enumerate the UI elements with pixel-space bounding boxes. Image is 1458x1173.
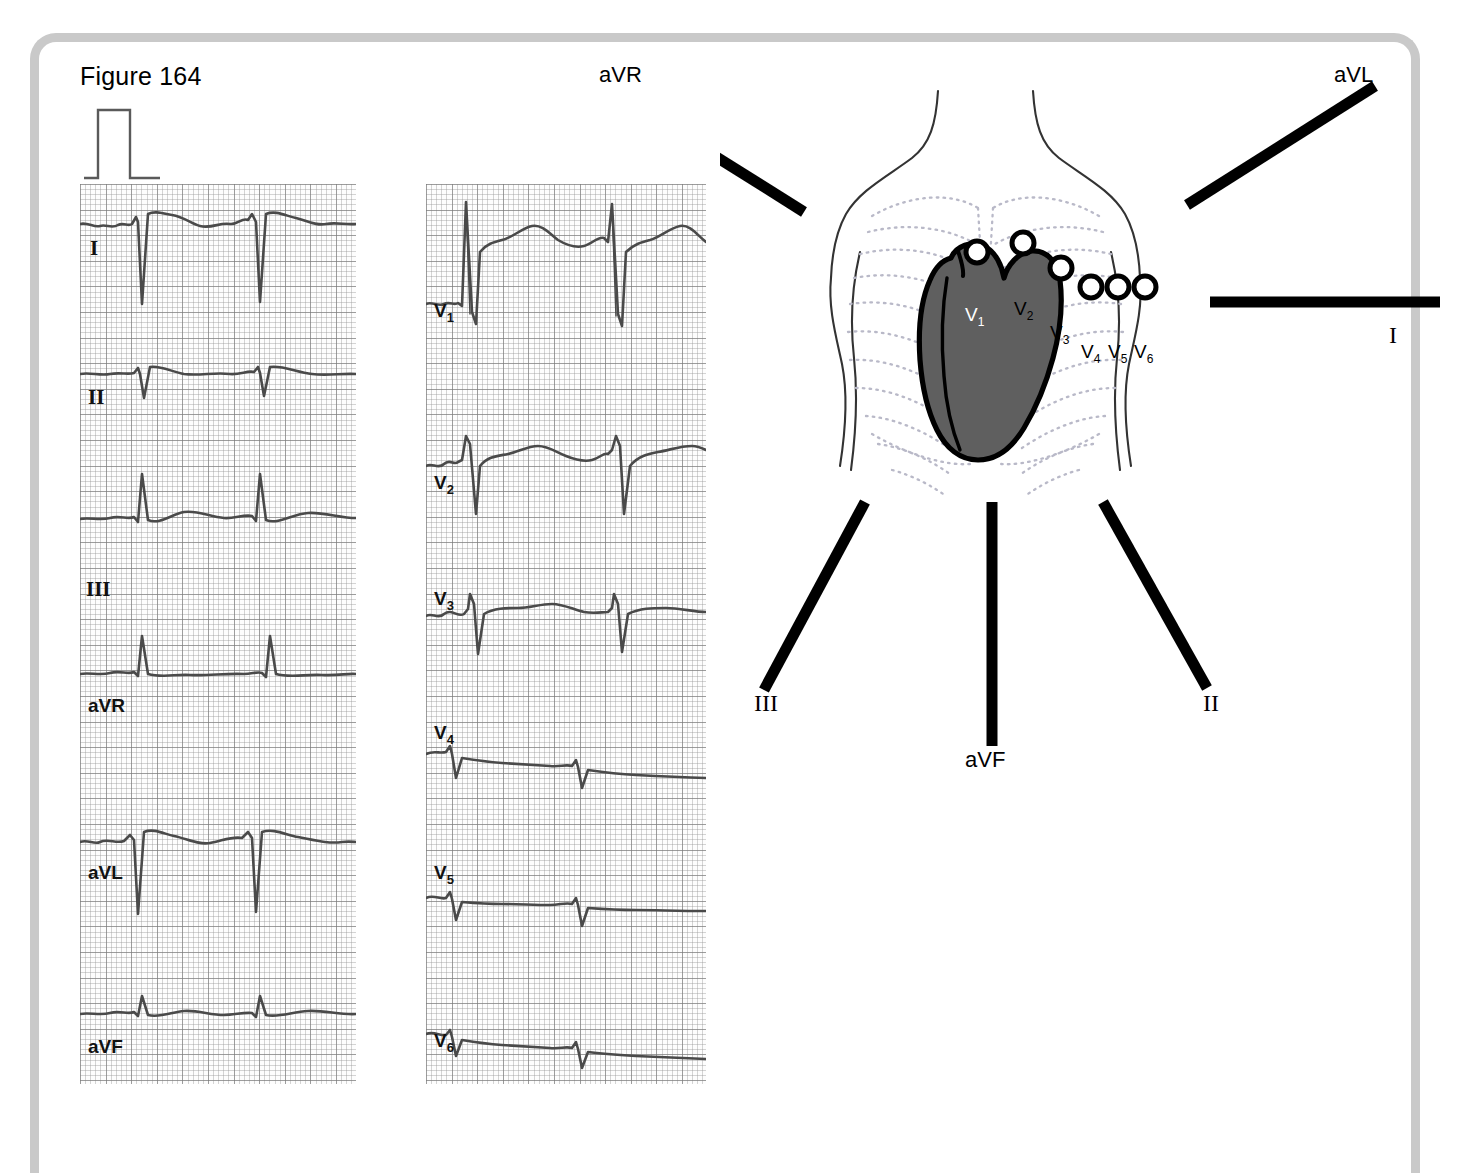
electrode-V4-icon: [1080, 276, 1102, 298]
lead-label-I: I: [90, 236, 98, 261]
electrode-V1-icon: [966, 241, 988, 263]
axis-label-III: III: [754, 690, 778, 717]
calibration-pulse-icon: [84, 106, 160, 184]
figure-title: Figure 164: [80, 62, 202, 91]
axis-label-aVR: aVR: [599, 62, 642, 88]
electrode-label-V4: V4: [1081, 341, 1100, 366]
electrode-label-V3: V3: [1050, 322, 1069, 347]
lead-axis-bars: [720, 85, 1440, 746]
lead-label-III: III: [86, 577, 111, 602]
axis-bar-III: [764, 502, 865, 690]
lead-label-aVF: aVF: [88, 1036, 123, 1058]
axis-label-aVF: aVF: [965, 747, 1005, 773]
axis-bar-aVL: [1187, 86, 1375, 205]
electrode-label-V5: V5: [1108, 341, 1127, 366]
heart-silhouette-icon: [919, 244, 1061, 460]
ecg-strip-chest-leads: [426, 184, 706, 1084]
electrode-label-V1: V1: [965, 304, 984, 329]
electrode-V6-icon: [1134, 276, 1156, 298]
lead-label-aVR: aVR: [88, 695, 125, 717]
lead-label-II: II: [88, 385, 104, 410]
ecg-strip-limb-leads: [80, 184, 356, 1084]
axis-bar-aVR: [720, 85, 804, 212]
electrode-label-V6: V6: [1134, 341, 1153, 366]
axis-bar-II: [1103, 502, 1207, 688]
lead-label-aVL: aVL: [88, 862, 123, 884]
electrode-V2-icon: [1012, 232, 1034, 254]
electrode-label-V2: V2: [1014, 298, 1033, 323]
electrode-V5-icon: [1107, 276, 1129, 298]
lead-label-V5: V5: [434, 862, 454, 887]
lead-label-V3: V3: [434, 588, 454, 613]
axis-label-aVL: aVL: [1334, 62, 1373, 88]
axis-label-I: I: [1389, 322, 1397, 349]
lead-label-V1: V1: [434, 300, 454, 325]
lead-label-V4: V4: [434, 722, 454, 747]
torso-lead-placement-diagram: [720, 46, 1440, 806]
axis-label-II: II: [1203, 690, 1219, 717]
ecg-traces-limb: [80, 184, 356, 1084]
electrode-V3-icon: [1050, 257, 1072, 279]
ecg-traces-chest: [426, 184, 706, 1084]
lead-label-V2: V2: [434, 472, 454, 497]
lead-label-V6: V6: [434, 1030, 454, 1055]
